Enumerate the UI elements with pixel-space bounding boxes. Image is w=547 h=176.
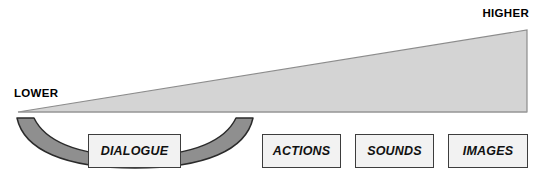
media-box-actions-label: ACTIONS	[273, 145, 331, 158]
diagram-canvas: LOWER HIGHER DIALOGUE ACTIONS SOUNDS IMA…	[0, 0, 547, 176]
media-box-sounds[interactable]: SOUNDS	[355, 134, 434, 168]
axis-label-lower: LOWER	[14, 88, 58, 100]
media-box-actions[interactable]: ACTIONS	[262, 134, 341, 168]
cost-gradient-wedge	[18, 30, 527, 112]
media-box-dialogue-label: DIALOGUE	[101, 145, 169, 158]
media-box-images[interactable]: IMAGES	[448, 134, 528, 168]
media-box-images-label: IMAGES	[463, 145, 514, 158]
media-box-dialogue[interactable]: DIALOGUE	[88, 134, 181, 168]
axis-label-higher: HIGHER	[482, 8, 529, 20]
media-box-sounds-label: SOUNDS	[367, 145, 422, 158]
